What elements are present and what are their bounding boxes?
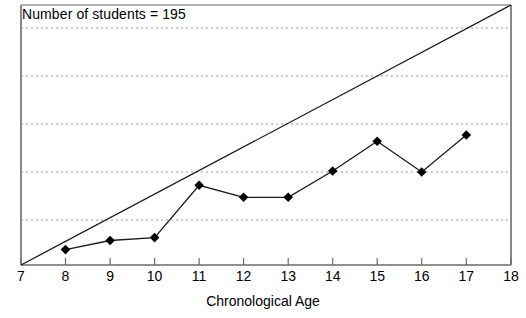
- x-axis-ticks: [21, 258, 511, 265]
- series-markers-mental-age: [61, 130, 471, 254]
- data-point-marker: [239, 193, 249, 203]
- annotation-student-count: Number of students = 195: [22, 6, 186, 22]
- x-tick-label-1: 8: [62, 268, 70, 284]
- x-tick-label-11: 18: [503, 268, 519, 284]
- chart-plot-area: [0, 0, 526, 318]
- x-tick-label-5: 12: [236, 268, 252, 284]
- data-point-marker: [105, 236, 115, 246]
- x-tick-label-8: 15: [369, 268, 385, 284]
- data-point-marker: [61, 245, 71, 255]
- x-tick-label-10: 17: [459, 268, 475, 284]
- x-tick-label-9: 16: [414, 268, 430, 284]
- reference-line-identity: [21, 5, 511, 265]
- series-line-mental-age: [66, 135, 467, 250]
- data-point-marker: [328, 166, 338, 176]
- grid-lines: [21, 28, 511, 220]
- x-tick-label-3: 10: [147, 268, 163, 284]
- x-tick-label-7: 14: [325, 268, 341, 284]
- x-tick-label-0: 7: [17, 268, 25, 284]
- x-tick-label-4: 11: [192, 268, 207, 284]
- data-point-marker: [372, 136, 382, 146]
- x-tick-label-2: 9: [106, 268, 114, 284]
- chart-container: Number of students = 195 7 8 9 10 11 12 …: [0, 0, 526, 318]
- x-axis-title: Chronological Age: [0, 293, 526, 309]
- data-point-marker: [283, 193, 293, 203]
- x-tick-label-6: 13: [280, 268, 296, 284]
